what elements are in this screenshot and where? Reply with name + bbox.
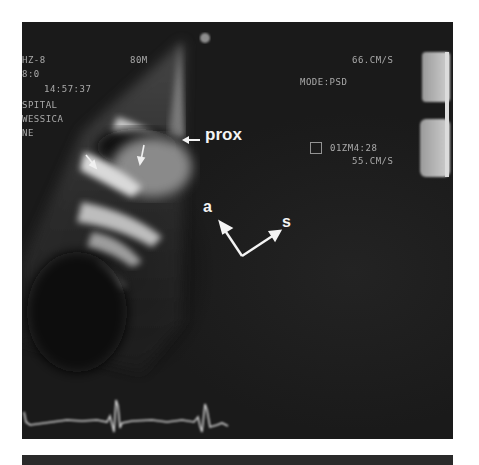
overlay-scale-bottom: 55.CM/S — [352, 156, 393, 166]
overlay-scale-top: 66.CM/S — [352, 55, 393, 65]
axis-s-label: s — [282, 213, 291, 231]
overlay-line-1: HZ-8 — [22, 55, 46, 65]
prox-arrow — [182, 136, 200, 144]
axis-a-label: a — [203, 198, 212, 216]
overlay-timecode: 01ZM4:28 — [330, 143, 377, 153]
overlay-box-icon — [310, 142, 322, 154]
overlay-line-6: NE — [22, 128, 34, 138]
overlay-time: 14:57:37 — [44, 84, 91, 94]
second-echo-frame-edge — [22, 455, 453, 465]
overlay-line-4: SPITAL — [22, 100, 58, 110]
overlay-line-2: 8:0 — [22, 69, 40, 79]
echocardiogram-frame: HZ-8 8:0 14:57:37 SPITAL WESSICA NE 80M … — [22, 22, 453, 439]
overlay-mode: MODE:PSD — [300, 77, 347, 87]
orientation-axes — [220, 222, 280, 256]
overlay-depth: 80M — [130, 55, 148, 65]
ecg-trace — [24, 400, 228, 432]
prox-label: prox — [205, 125, 242, 145]
overlay-line-5: WESSICA — [22, 114, 63, 124]
